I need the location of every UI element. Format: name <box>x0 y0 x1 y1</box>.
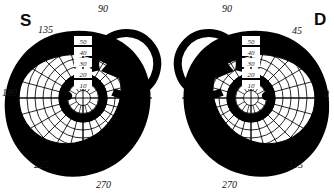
polar-plot-right-svg: 50 40 30 20 10 <box>167 0 334 196</box>
radial-label-40-left: 40 <box>80 49 88 57</box>
meridian-label-135-left: 135 <box>38 25 53 35</box>
radial-label-20-left: 20 <box>80 71 88 79</box>
meridian-label-90-left: 90 <box>98 4 108 14</box>
eye-label-sinister: S <box>20 12 31 29</box>
radial-label-20-right: 20 <box>248 71 256 79</box>
radial-label-10-right: 10 <box>248 82 256 90</box>
radial-label-40-right: 40 <box>248 49 256 57</box>
meridian-label-270-right: 270 <box>222 180 237 190</box>
radial-tick-labels-right: 50 40 30 20 10 <box>242 36 260 90</box>
radial-label-30-left: 30 <box>79 60 88 68</box>
meridian-label-270-left: 270 <box>96 180 111 190</box>
meridian-label-90-right: 90 <box>222 4 232 14</box>
blind-spot-marker-left <box>64 92 72 100</box>
meridian-label-0-right: 0 <box>324 89 329 99</box>
meridian-label-315-right: 315 <box>288 160 303 170</box>
meridian-label-180-left: 180 <box>2 88 17 98</box>
perimetry-figure: 50 40 30 20 10 <box>0 0 334 196</box>
radial-label-30-right: 30 <box>247 60 256 68</box>
eye-label-dexter: D <box>314 11 326 28</box>
meridian-label-225-left: 225 <box>34 160 49 170</box>
meridian-label-45-right: 45 <box>292 26 302 36</box>
radial-label-50-right: 50 <box>248 38 256 46</box>
polar-chart-right-eye: 50 40 30 20 10 <box>167 0 334 196</box>
radial-tick-labels-left: 50 40 30 20 10 <box>74 36 92 90</box>
radial-label-10-left: 10 <box>80 82 88 90</box>
radial-label-50-left: 50 <box>80 38 88 46</box>
blind-spot-marker-right <box>262 92 270 100</box>
